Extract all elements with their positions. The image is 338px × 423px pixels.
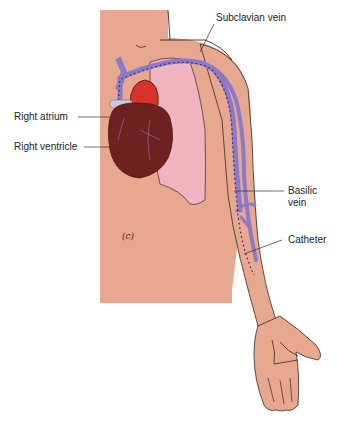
label-catheter: Catheter	[288, 234, 326, 246]
hand	[254, 316, 321, 411]
anatomy-figure	[0, 0, 338, 423]
panel-label: (c)	[122, 231, 134, 241]
label-right-atrium: Right atrium	[14, 111, 68, 123]
label-right-ventricle: Right ventricle	[14, 141, 77, 153]
label-basilic-vein: Basilic vein	[288, 185, 317, 209]
label-basilic-line1: Basilic	[288, 185, 317, 197]
label-basilic-line2: vein	[288, 197, 317, 209]
label-subclavian-vein: Subclavian vein	[216, 12, 286, 24]
